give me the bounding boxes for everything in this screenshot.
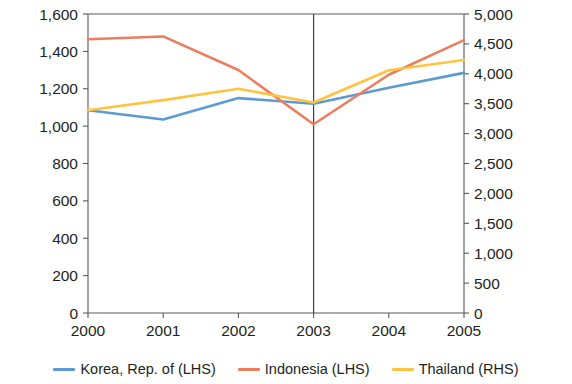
line-chart-figure: 02004006008001,0001,2001,4001,600 05001,… xyxy=(0,0,572,384)
x-tick-label: 2000 xyxy=(71,322,106,339)
y-right-tick-label: 5,000 xyxy=(474,6,513,23)
y-right-tick-label: 4,000 xyxy=(474,65,513,82)
y-axis-right: 05001,0001,5002,0002,5003,0003,5004,0004… xyxy=(464,6,513,322)
y-left-tick-label: 0 xyxy=(69,305,78,322)
x-axis: 200020012002200320042005 xyxy=(71,313,481,339)
y-left-tick-label: 1,400 xyxy=(39,43,78,60)
y-right-tick-label: 3,000 xyxy=(474,125,513,142)
y-right-tick-label: 1,500 xyxy=(474,215,513,232)
legend-item[interactable]: Korea, Rep. of (LHS) xyxy=(53,362,215,377)
series-line xyxy=(88,36,464,124)
y-left-tick-label: 600 xyxy=(52,192,78,209)
x-tick-label: 2001 xyxy=(146,322,180,339)
y-left-tick-label: 800 xyxy=(52,155,78,172)
y-right-tick-label: 0 xyxy=(474,305,483,322)
series-layer xyxy=(88,36,464,124)
legend-color-swatch xyxy=(392,368,414,371)
y-left-tick-label: 1,600 xyxy=(39,6,78,23)
y-axis-left: 02004006008001,0001,2001,4001,600 xyxy=(39,6,88,322)
plot-frame xyxy=(88,14,464,313)
legend-item[interactable]: Indonesia (LHS) xyxy=(238,362,370,377)
legend-color-swatch xyxy=(53,368,75,371)
legend-label: Thailand (RHS) xyxy=(419,362,519,377)
y-left-tick-label: 1,000 xyxy=(39,118,78,135)
legend-label: Indonesia (LHS) xyxy=(265,362,370,377)
chart-plot-area: 02004006008001,0001,2001,4001,600 05001,… xyxy=(0,0,572,384)
legend-label: Korea, Rep. of (LHS) xyxy=(80,362,215,377)
y-left-tick-label: 400 xyxy=(52,230,78,247)
legend-color-swatch xyxy=(238,368,260,371)
y-left-tick-label: 200 xyxy=(52,267,78,284)
y-right-tick-label: 4,500 xyxy=(474,35,513,52)
y-right-tick-label: 3,500 xyxy=(474,95,513,112)
x-tick-label: 2005 xyxy=(447,322,481,339)
x-tick-label: 2002 xyxy=(221,322,255,339)
legend-item[interactable]: Thailand (RHS) xyxy=(392,362,519,377)
y-left-tick-label: 1,200 xyxy=(39,80,78,97)
y-right-tick-label: 2,500 xyxy=(474,155,513,172)
x-tick-label: 2004 xyxy=(372,322,407,339)
y-right-tick-label: 1,000 xyxy=(474,245,513,262)
frame-border xyxy=(88,14,464,313)
x-tick-label: 2003 xyxy=(296,322,330,339)
y-right-tick-label: 2,000 xyxy=(474,185,513,202)
y-right-tick-label: 500 xyxy=(474,275,500,292)
chart-legend: Korea, Rep. of (LHS)Indonesia (LHS)Thail… xyxy=(0,355,572,384)
